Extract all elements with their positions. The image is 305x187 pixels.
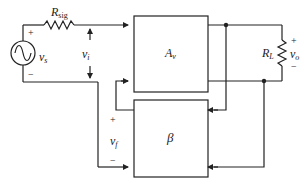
rsig-label: Rsig	[50, 5, 68, 20]
vi-label: vi	[82, 47, 90, 62]
junction-dot	[262, 79, 266, 83]
load-resistor-icon	[278, 40, 286, 66]
vo-plus: +	[291, 35, 297, 46]
source-label: vs	[39, 50, 47, 65]
source-minus: −	[28, 69, 34, 80]
vo-label: vo	[290, 47, 299, 62]
amplifier-label: Av	[164, 46, 176, 61]
vo-minus: −	[291, 61, 297, 72]
source-plus: +	[28, 27, 34, 38]
vf-plus: +	[110, 114, 116, 125]
rsig-resistor-icon	[44, 21, 74, 29]
vf-label: vf	[110, 134, 119, 149]
feedback-label: β	[166, 130, 174, 145]
vf-minus: −	[110, 155, 116, 166]
junction-dot	[224, 23, 228, 27]
rl-label: RL	[261, 46, 274, 61]
feedback-amplifier-diagram: + − vs Rsig vi Av β + vf − RL + vo −	[0, 0, 305, 187]
